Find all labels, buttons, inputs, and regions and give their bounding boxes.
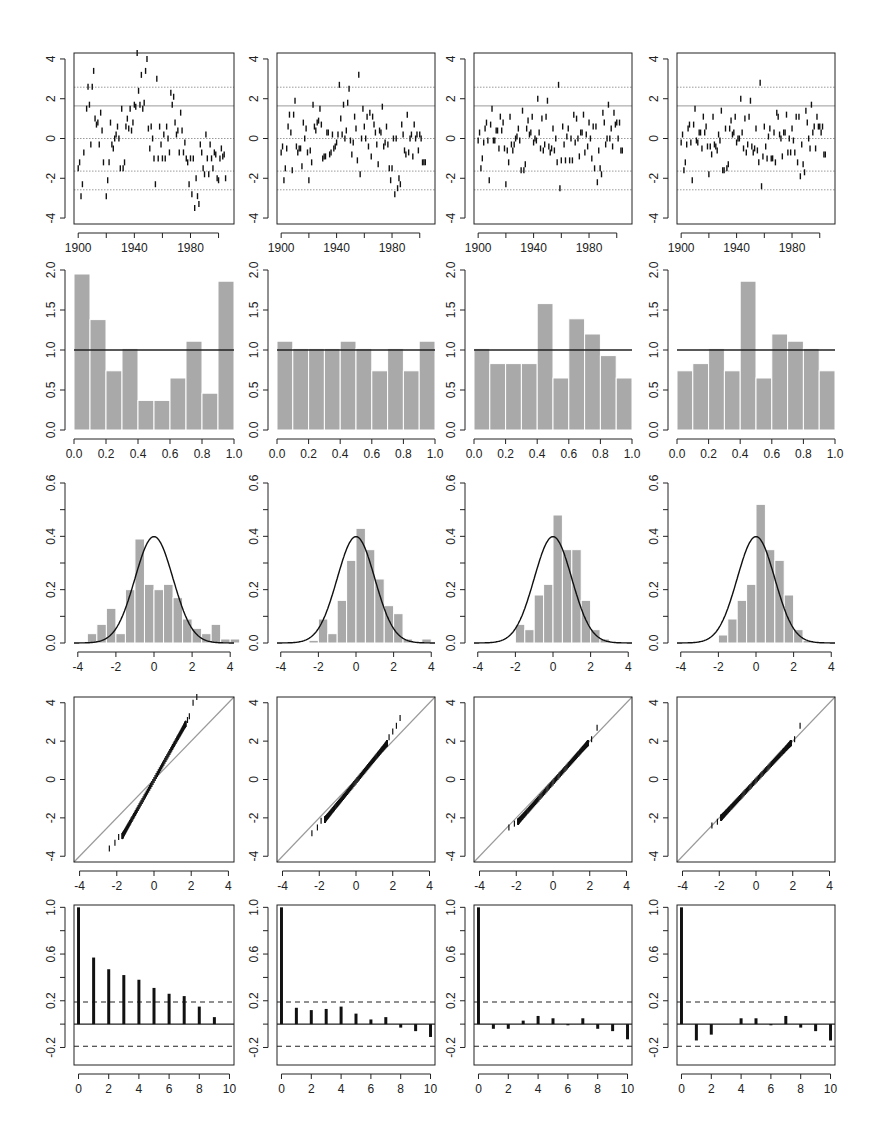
histogram-bar xyxy=(693,364,709,430)
histogram-bar xyxy=(474,348,490,430)
y-tick-label: 4 xyxy=(247,55,261,62)
y-tick-label: -2 xyxy=(444,812,458,823)
histogram-bar xyxy=(138,400,154,430)
y-tick-label: 2 xyxy=(44,95,58,102)
x-tick-label: 0 xyxy=(678,1082,685,1096)
x-tick-label: 4 xyxy=(136,1082,143,1096)
y-tick-label: 0 xyxy=(44,135,58,142)
x-tick-label: 0.4 xyxy=(130,447,147,461)
histogram-bar xyxy=(164,584,174,643)
histogram-bar xyxy=(772,334,788,430)
chart-canvas: 190019401980-4-2024190019401980-4-202419… xyxy=(0,0,876,1134)
y-tick-label: 0.2 xyxy=(444,581,458,598)
x-tick-label: 0.4 xyxy=(732,447,749,461)
plot-frame xyxy=(277,905,435,1065)
histogram-bar xyxy=(170,378,186,430)
x-tick-label: 0 xyxy=(75,1082,82,1096)
y-tick-label: 1.0 xyxy=(44,341,58,358)
y-tick-label: 0.0 xyxy=(247,634,261,651)
y-tick-label: -2 xyxy=(44,173,58,184)
x-tick-label: 6 xyxy=(368,1082,375,1096)
x-tick-label: 1.0 xyxy=(427,447,444,461)
y-tick-label: 1.0 xyxy=(444,341,458,358)
x-tick-label: -2 xyxy=(111,879,122,893)
y-tick-label: 4 xyxy=(44,699,58,706)
x-tick-label: 1940 xyxy=(323,241,350,255)
histogram-bar xyxy=(521,364,537,430)
y-tick-label: 0.0 xyxy=(44,634,58,651)
y-tick-label: 0.2 xyxy=(44,992,58,1009)
y-tick-label: 4 xyxy=(647,55,661,62)
y-tick-label: 0.2 xyxy=(647,992,661,1009)
x-tick-label: 0.8 xyxy=(592,447,609,461)
histogram-bar xyxy=(211,624,221,643)
y-tick-label: 0.4 xyxy=(44,528,58,545)
y-tick-label: -2 xyxy=(647,173,661,184)
y-tick-label: 1.5 xyxy=(444,301,458,318)
histogram-bar xyxy=(309,348,325,430)
y-tick-label: 0.0 xyxy=(247,421,261,438)
histogram-bar xyxy=(553,515,562,643)
histogram-bar xyxy=(218,281,234,430)
histogram-bar xyxy=(122,348,138,430)
x-tick-label: 2 xyxy=(308,1082,315,1096)
x-tick-label: 2 xyxy=(189,660,196,674)
x-tick-label: -2 xyxy=(314,879,325,893)
x-tick-label: -4 xyxy=(74,879,85,893)
histogram-bar xyxy=(328,634,337,643)
x-tick-label: 2 xyxy=(505,1082,512,1096)
y-tick-label: 1.0 xyxy=(44,899,58,916)
x-tick-label: -2 xyxy=(313,660,324,674)
histogram-bar xyxy=(356,348,372,430)
figure-grid: 190019401980-4-2024190019401980-4-202419… xyxy=(0,0,876,1134)
x-tick-label: 0.6 xyxy=(560,447,577,461)
x-tick-label: 0 xyxy=(753,879,760,893)
y-tick-label: 0 xyxy=(647,776,661,783)
x-tick-label: 0.2 xyxy=(300,447,317,461)
y-tick-label: 0.2 xyxy=(647,581,661,598)
y-tick-label: 2.0 xyxy=(444,261,458,278)
x-tick-label: -2 xyxy=(510,660,521,674)
x-tick-label: 6 xyxy=(166,1082,173,1096)
y-tick-label: -0.2 xyxy=(247,1037,261,1058)
histogram-bar xyxy=(90,320,106,430)
x-tick-label: 1.0 xyxy=(827,447,844,461)
y-tick-label: 2.0 xyxy=(247,261,261,278)
x-tick-label: 4 xyxy=(227,660,234,674)
histogram-bar xyxy=(506,364,522,430)
x-tick-label: 0 xyxy=(151,660,158,674)
y-tick-label: 0 xyxy=(247,776,261,783)
histogram-bar xyxy=(106,371,122,430)
x-tick-label: -2 xyxy=(111,660,122,674)
y-tick-label: 0.6 xyxy=(247,474,261,491)
histogram-bar xyxy=(740,281,756,430)
histogram-bar xyxy=(116,634,126,643)
x-tick-label: -4 xyxy=(675,660,686,674)
y-tick-label: 2.0 xyxy=(44,261,58,278)
x-tick-label: 8 xyxy=(797,1082,804,1096)
histogram-bar xyxy=(293,348,309,430)
y-tick-label: -2 xyxy=(647,812,661,823)
y-tick-label: 2 xyxy=(444,95,458,102)
histogram-bar xyxy=(585,334,601,430)
y-tick-label: 2 xyxy=(247,95,261,102)
y-tick-label: 2 xyxy=(44,737,58,744)
y-tick-label: 1.0 xyxy=(247,899,261,916)
x-tick-label: 0.8 xyxy=(395,447,412,461)
histogram-bar xyxy=(581,600,590,643)
x-tick-label: -4 xyxy=(474,879,485,893)
x-tick-label: 1980 xyxy=(576,241,603,255)
y-tick-label: 0 xyxy=(444,776,458,783)
x-tick-label: 2 xyxy=(390,660,397,674)
y-tick-label: 1.0 xyxy=(247,341,261,358)
y-tick-label: 0.6 xyxy=(647,474,661,491)
x-tick-label: 8 xyxy=(397,1082,404,1096)
histogram-bar xyxy=(724,371,740,430)
x-tick-label: 2 xyxy=(790,660,797,674)
histogram-bar xyxy=(677,371,693,430)
x-tick-label: 2 xyxy=(389,879,396,893)
x-tick-label: 0 xyxy=(151,879,158,893)
x-tick-label: 10 xyxy=(621,1082,635,1096)
panel-r0-c2: 190019401980-4-2024 xyxy=(444,53,632,255)
x-tick-label: -4 xyxy=(677,879,688,893)
